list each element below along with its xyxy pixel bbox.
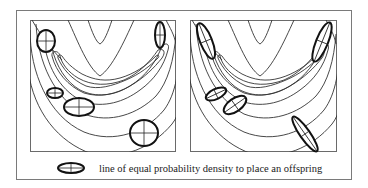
offspring-ellipse <box>37 30 55 52</box>
offspring-ellipse <box>155 22 165 48</box>
diagram-figure: line of equal probability density to pla… <box>0 0 368 188</box>
offspring-ellipse <box>47 88 63 98</box>
left-panel <box>28 20 182 156</box>
legend-label: line of equal probability density to pla… <box>99 163 323 174</box>
offspring-ellipse <box>64 98 94 116</box>
ellipse-with-crosshair-icon <box>58 163 84 173</box>
legend: line of equal probability density to pla… <box>58 163 323 174</box>
offspring-ellipse <box>130 120 158 146</box>
right-panel <box>188 20 342 156</box>
